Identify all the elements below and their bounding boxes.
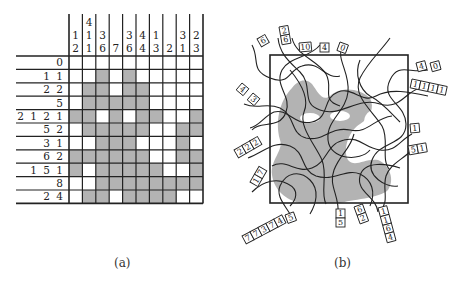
filled-cell <box>109 150 122 163</box>
empty-cell <box>69 177 82 190</box>
row-clue: 3 <box>43 137 50 149</box>
row-clue: 2 <box>17 110 24 122</box>
filled-cell <box>82 150 95 163</box>
clue-label-bottom-5: 5 <box>285 212 297 224</box>
row-clue: 2 <box>56 123 63 135</box>
filled-cell <box>109 96 122 109</box>
empty-cell <box>176 110 189 123</box>
clue-label-top-2-6: 26 <box>279 25 291 44</box>
filled-cell <box>82 96 95 109</box>
filled-cell <box>176 177 189 190</box>
empty-cell <box>109 83 122 96</box>
empty-cell <box>69 96 82 109</box>
empty-cell <box>190 69 203 82</box>
empty-cell <box>69 69 82 82</box>
filled-cell <box>123 177 136 190</box>
filled-cell <box>123 123 136 136</box>
filled-cell <box>149 163 162 176</box>
filled-cell <box>123 163 136 176</box>
empty-cell <box>136 136 149 149</box>
empty-cell <box>149 69 162 82</box>
empty-cell <box>176 96 189 109</box>
column-clue: 2 <box>193 29 200 41</box>
empty-cell <box>149 136 162 149</box>
empty-cell <box>123 110 136 123</box>
row-clue: 1 <box>56 110 63 122</box>
clue-label-right-4: 4 <box>416 61 427 72</box>
row-clue: 0 <box>56 56 63 68</box>
row-clue: 1 <box>43 70 50 82</box>
row-clue: 1 <box>56 137 63 149</box>
filled-cell <box>149 177 162 190</box>
filled-cell <box>96 177 109 190</box>
clue-label-left-2-2-2: 222 <box>234 137 262 158</box>
column-clue: 3 <box>153 42 160 54</box>
svg-text:10: 10 <box>300 42 311 52</box>
nonogram-grid: 1241136736441323123011225212152316215182… <box>0 0 230 284</box>
row-clue: 5 <box>56 97 63 109</box>
filled-cell <box>109 136 122 149</box>
filled-cell <box>82 123 95 136</box>
empty-cell <box>176 163 189 176</box>
row-clue: 5 <box>43 164 50 176</box>
empty-cell <box>163 150 176 163</box>
filled-cell <box>82 110 95 123</box>
empty-cell <box>190 190 203 203</box>
empty-cell <box>149 56 162 69</box>
empty-cell <box>109 190 122 203</box>
row-clue: 1 <box>30 110 37 122</box>
clue-label-top-4: 4 <box>320 43 329 52</box>
filled-cell <box>163 177 176 190</box>
empty-cell <box>149 96 162 109</box>
filled-cell <box>136 83 149 96</box>
column-clue: 2 <box>166 42 173 54</box>
filled-cell <box>136 177 149 190</box>
column-clue: 3 <box>126 29 133 41</box>
row-clue: 1 <box>56 164 63 176</box>
empty-cell <box>190 136 203 149</box>
clue-label-top-6: 6 <box>257 35 269 47</box>
filled-cell <box>69 110 82 123</box>
empty-cell <box>190 56 203 69</box>
filled-cell <box>109 177 122 190</box>
filled-cell <box>96 123 109 136</box>
column-clue: 6 <box>99 42 106 54</box>
row-clue: 2 <box>43 83 50 95</box>
empty-cell <box>176 69 189 82</box>
empty-cell <box>163 83 176 96</box>
column-clue: 1 <box>72 29 79 41</box>
empty-cell <box>82 56 95 69</box>
column-clue: 3 <box>193 42 200 54</box>
empty-cell <box>82 136 95 149</box>
column-clue: 4 <box>86 16 93 28</box>
filled-cell <box>149 110 162 123</box>
empty-cell <box>149 123 162 136</box>
column-clue: 4 <box>139 42 146 54</box>
filled-cell <box>96 190 109 203</box>
filled-cell <box>96 69 109 82</box>
filled-cell <box>82 83 95 96</box>
column-clue: 1 <box>180 42 187 54</box>
clue-label-top-0: 0 <box>337 42 349 54</box>
filled-cell <box>136 123 149 136</box>
row-clue: 2 <box>43 190 50 202</box>
empty-cell <box>190 96 203 109</box>
row-clue: 5 <box>43 123 50 135</box>
row-clue: 4 <box>56 190 63 202</box>
row-clue: 2 <box>43 110 50 122</box>
svg-text:4: 4 <box>322 43 327 52</box>
filled-cell <box>163 190 176 203</box>
empty-cell <box>190 83 203 96</box>
filled-cell <box>123 69 136 82</box>
column-clue: 2 <box>72 42 79 54</box>
filled-cell <box>123 190 136 203</box>
empty-cell <box>163 123 176 136</box>
filled-cell <box>96 150 109 163</box>
filled-cell <box>96 163 109 176</box>
svg-text:1: 1 <box>338 209 343 218</box>
clue-label-bottom-77374: 77374 <box>242 215 286 244</box>
svg-text:5: 5 <box>338 218 343 227</box>
loop-puzzle-panel: 6261040401111151432221757737415621164 (b… <box>230 0 455 284</box>
filled-cell <box>136 163 149 176</box>
empty-cell <box>163 96 176 109</box>
